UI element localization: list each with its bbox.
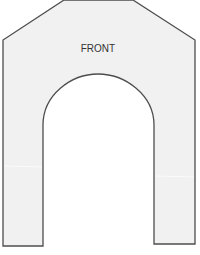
arch-shape — [3, 0, 195, 246]
arch-template: FRONT — [0, 0, 200, 255]
front-label: FRONT — [81, 43, 115, 54]
